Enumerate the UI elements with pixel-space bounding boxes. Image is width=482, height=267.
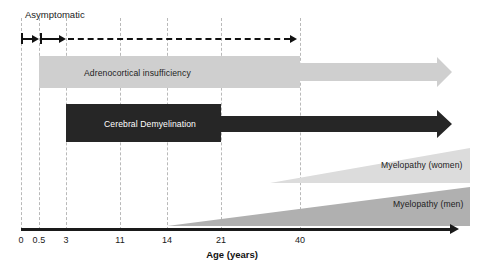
tick-label-3: 3: [63, 235, 68, 245]
cerebral-demyelination-label: Cerebral Demyelination: [104, 119, 196, 129]
x-axis-arrowhead: [450, 224, 459, 234]
tick-label-14: 14: [162, 235, 172, 245]
asymptomatic-arrowhead-0_5: [32, 35, 39, 43]
tick-label-40: 40: [295, 235, 305, 245]
asymptomatic-arrow-row: [0, 33, 482, 45]
asymptomatic-segment-3-to-40-dashed: [68, 38, 290, 40]
gridline-age-3: [66, 18, 67, 230]
tick-label-0: 0: [18, 235, 23, 245]
asymptomatic-arrowhead-3: [59, 35, 66, 43]
asymptomatic-segment-0_5-to-3: [41, 38, 59, 40]
asymptomatic-arrowhead-40: [290, 35, 297, 43]
tick-label-21: 21: [216, 235, 226, 245]
gridline-age-21: [221, 18, 222, 230]
x-axis-line: [21, 228, 452, 231]
tick-label-11: 11: [115, 235, 125, 245]
x-axis-title: Age (years): [206, 249, 258, 260]
x-ald-natural-history-timeline: Asymptomatic Adrenocortical insufficienc…: [0, 0, 482, 267]
gridline-age-0-5: [39, 18, 40, 230]
gridline-age-40: [300, 18, 301, 230]
myelopathy-women-label: Myelopathy (women): [381, 160, 463, 170]
myelopathy-men-label: Myelopathy (men): [393, 199, 463, 209]
adrenocortical-insufficiency-label: Adrenocortical insufficiency: [84, 68, 191, 78]
tick-label-0-5: 0.5: [33, 235, 46, 245]
gridline-age-0: [21, 18, 22, 230]
asymptomatic-label: Asymptomatic: [25, 9, 85, 20]
